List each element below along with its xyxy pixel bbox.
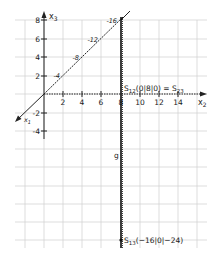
x3-tick-2: 2	[35, 72, 40, 81]
x3-tick-4: 4	[35, 53, 40, 62]
x1-tick-neg4: -4	[54, 72, 60, 80]
point-s13-label: S13(−16|0|−24)	[124, 236, 183, 246]
x2-tick-6: 6	[99, 98, 104, 107]
x1-axis-label: x1	[23, 116, 31, 125]
x1-tick-neg8: -8	[73, 54, 79, 62]
x3-tick-6: 6	[35, 35, 40, 44]
x3-tick-8: 8	[35, 16, 40, 25]
point-s12-label: S12(0|8|0) = S23	[124, 84, 184, 94]
line-g-label: g	[114, 151, 119, 160]
x2-axis-label: x2	[198, 98, 207, 108]
line-g	[121, 17, 123, 248]
arrow-up-icon	[42, 11, 47, 18]
x1-tick-neg16: -16	[106, 17, 117, 25]
coordinate-diagram: 8 6 4 2 -2 -4 x3 2 4 6 8 10 12 14 x2 -4 …	[0, 0, 217, 262]
point-s13-marker	[119, 238, 122, 241]
diagram-canvas: 8 6 4 2 -2 -4 x3 2 4 6 8 10 12 14 x2 -4 …	[0, 0, 217, 262]
x3-tick-neg2: -2	[33, 109, 41, 118]
x2-tick-14: 14	[173, 98, 183, 107]
x1-axis	[15, 11, 130, 122]
x3-axis-label: x3	[49, 12, 58, 22]
x2-tick-4: 4	[80, 98, 85, 107]
x2-tick-2: 2	[61, 98, 66, 107]
x2-tick-10: 10	[135, 98, 145, 107]
x1-tick-neg12: -12	[87, 36, 98, 44]
x2-tick-12: 12	[154, 98, 164, 107]
arrow-right-icon	[200, 92, 207, 97]
x3-axis	[41, 11, 47, 139]
x3-tick-neg4: -4	[33, 127, 41, 136]
